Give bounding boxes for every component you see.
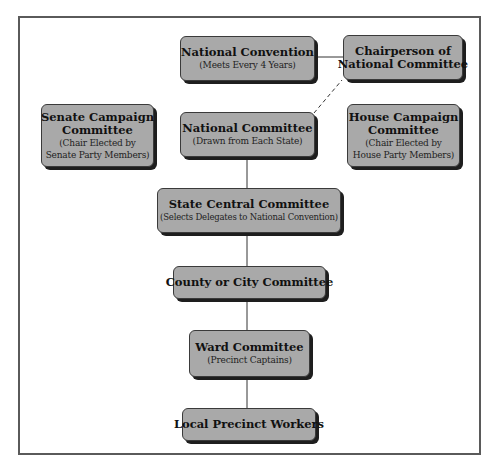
node-house-campaign: House Campaign Committee (Chair Elected … [347, 104, 460, 167]
node-senate-campaign: Senate Campaign Committee (Chair Elected… [41, 104, 154, 167]
node-chairperson: Chairperson of National Committee [343, 35, 463, 80]
node-title: National Convention [181, 46, 314, 59]
node-title: Committee [62, 124, 133, 137]
node-title: Local Precinct Workers [174, 418, 324, 431]
node-ward: Ward Committee (Precinct Captains) [189, 330, 310, 377]
node-subtitle: House Party Members) [353, 149, 454, 161]
node-subtitle: (Chair Elected by [365, 137, 441, 149]
node-national-convention: National Convention (Meets Every 4 Years… [180, 36, 315, 81]
node-title: Committee [368, 124, 439, 137]
node-subtitle: Senate Party Members) [46, 149, 150, 161]
node-title: National Committee [338, 58, 468, 71]
node-title: State Central Committee [169, 198, 330, 211]
node-title: National Committee [182, 122, 312, 135]
node-title: Senate Campaign [41, 111, 154, 124]
node-subtitle: (Precinct Captains) [207, 354, 291, 366]
node-state-central: State Central Committee (Selects Delegat… [157, 188, 341, 233]
node-subtitle: (Drawn from Each State) [193, 135, 303, 147]
node-title: County or City Committee [166, 276, 334, 289]
node-local-precinct: Local Precinct Workers [182, 408, 316, 441]
node-subtitle: (Selects Delegates to National Conventio… [160, 211, 338, 223]
node-subtitle: (Chair Elected by [59, 137, 135, 149]
node-county-city: County or City Committee [173, 266, 326, 299]
node-subtitle: (Meets Every 4 Years) [199, 59, 295, 71]
node-national-committee: National Committee (Drawn from Each Stat… [180, 112, 315, 157]
edge-committee-chairperson [314, 80, 342, 113]
node-title: Ward Committee [195, 341, 303, 354]
node-title: Chairperson of [355, 45, 451, 58]
node-title: House Campaign [349, 111, 459, 124]
